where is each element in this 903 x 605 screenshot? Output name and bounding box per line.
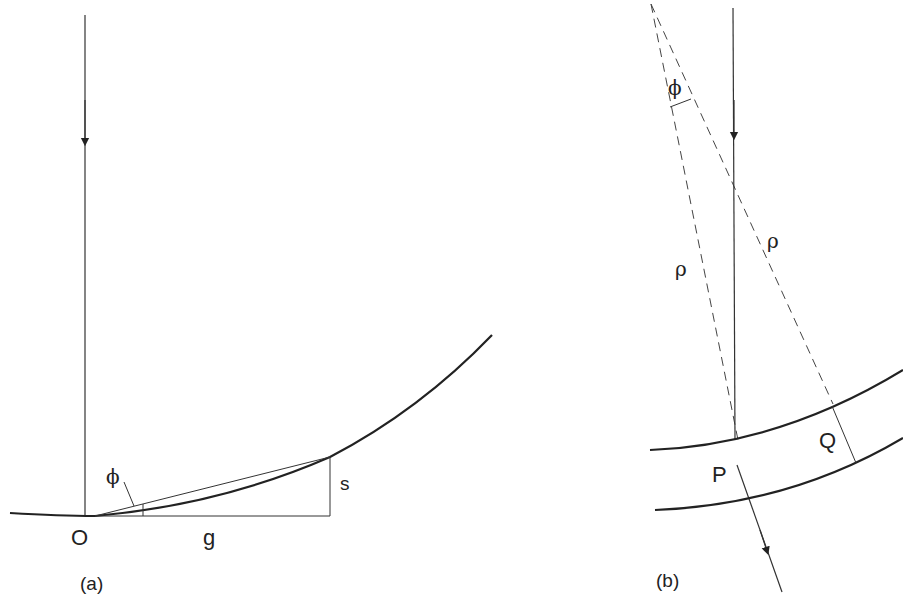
arrow-head-icon (760, 530, 767, 551)
rho-left-label: ρ (675, 257, 687, 281)
caption-a: (a) (80, 573, 103, 594)
origin-label: O (71, 525, 88, 550)
s-label: s (340, 473, 350, 494)
angle-pointer (124, 482, 134, 506)
diagram-canvas: ϕ s O g (a) ϕ ρ ρ P Q (b) (0, 0, 903, 605)
angle-arc-b (670, 99, 691, 107)
rho-right-label: ρ (767, 229, 779, 253)
chord-line (95, 457, 330, 516)
caption-b: (b) (656, 570, 679, 591)
upper-boundary (650, 370, 903, 450)
q-label: Q (819, 428, 836, 453)
incident-ray-b (733, 8, 735, 440)
surface-curve (10, 335, 492, 516)
lower-boundary (655, 438, 903, 510)
refracted-ray (737, 465, 782, 592)
radius-right (651, 4, 833, 404)
angle-label-a: ϕ (106, 465, 120, 489)
panel-b: ϕ ρ ρ P Q (b) (650, 4, 903, 592)
angle-label-b: ϕ (668, 76, 682, 100)
panel-a: ϕ s O g (a) (10, 15, 492, 594)
g-label: g (203, 525, 215, 550)
radius-left (651, 4, 738, 440)
p-label: P (712, 462, 727, 487)
